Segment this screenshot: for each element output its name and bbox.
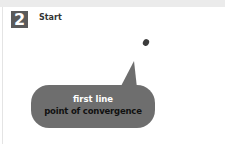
instruction-panel: 2 Start first line point of convergence — [0, 0, 225, 144]
callout-line1: first line — [31, 93, 155, 105]
callout-line2: point of convergence — [31, 105, 155, 117]
callout-bubble: first line point of convergence — [31, 85, 155, 128]
